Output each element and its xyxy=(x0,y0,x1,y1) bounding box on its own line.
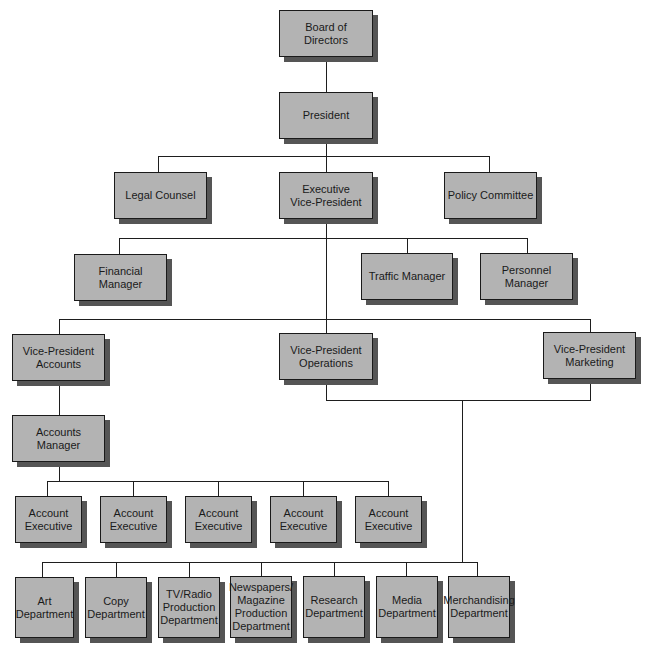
connector-line xyxy=(527,238,528,253)
org-chart: Board of Directors President Legal Couns… xyxy=(0,0,652,653)
node-label: Account Executive xyxy=(110,507,158,533)
node-newspapers-magazine-production-department[interactable]: Newspapers/ Magazine Production Departme… xyxy=(230,576,292,638)
connector-line xyxy=(158,156,159,172)
connector-line xyxy=(119,238,120,254)
node-research-department[interactable]: Research Department xyxy=(303,576,365,638)
connector-line xyxy=(47,481,48,496)
connector-line xyxy=(119,238,527,239)
connector-line xyxy=(133,481,134,496)
node-label: Vice-President Operations xyxy=(290,344,361,370)
node-label: Account Executive xyxy=(25,507,73,533)
connector-line xyxy=(189,562,190,577)
node-personnel-manager[interactable]: Personnel Manager xyxy=(480,253,573,300)
node-label: Newspapers/ Magazine Production Departme… xyxy=(229,581,293,633)
node-vp-marketing[interactable]: Vice-President Marketing xyxy=(543,332,636,379)
connector-line xyxy=(406,562,407,577)
connector-line xyxy=(59,319,590,320)
node-label: Board of Directors xyxy=(282,21,370,47)
connector-line xyxy=(477,562,478,577)
connector-line xyxy=(462,400,463,562)
connector-line xyxy=(334,562,335,577)
node-label: Media Department xyxy=(378,594,435,620)
connector-line xyxy=(326,219,327,333)
connector-line xyxy=(590,319,591,332)
node-account-executive[interactable]: Account Executive xyxy=(100,496,167,543)
node-executive-vice-president[interactable]: Executive Vice-President xyxy=(279,172,373,219)
connector-line xyxy=(326,57,327,92)
node-traffic-manager[interactable]: Traffic Manager xyxy=(361,253,453,300)
node-label: Executive Vice-President xyxy=(290,183,361,209)
node-tv-radio-production-department[interactable]: TV/Radio Production Department xyxy=(158,577,220,638)
node-label: Account Executive xyxy=(195,507,243,533)
connector-line xyxy=(388,481,389,496)
node-label: Financial Manager xyxy=(77,265,164,291)
node-media-department[interactable]: Media Department xyxy=(376,576,438,638)
connector-line xyxy=(261,562,262,577)
node-label: Art Department xyxy=(16,595,73,621)
node-account-executive[interactable]: Account Executive xyxy=(185,496,252,543)
connector-line xyxy=(59,381,60,415)
node-label: Personnel Manager xyxy=(483,264,570,290)
node-financial-manager[interactable]: Financial Manager xyxy=(74,254,167,301)
node-label: Copy Department xyxy=(87,595,144,621)
node-label: Vice-President Accounts xyxy=(23,345,94,371)
node-account-executive[interactable]: Account Executive xyxy=(15,496,82,543)
node-vp-operations[interactable]: Vice-President Operations xyxy=(279,333,373,380)
node-board-of-directors[interactable]: Board of Directors xyxy=(279,10,373,57)
connector-line xyxy=(590,379,591,400)
node-vp-accounts[interactable]: Vice-President Accounts xyxy=(12,334,105,381)
node-label: Accounts Manager xyxy=(36,426,81,452)
node-label: Research Department xyxy=(305,594,362,620)
node-legal-counsel[interactable]: Legal Counsel xyxy=(114,172,207,219)
connector-line xyxy=(326,380,327,400)
connector-line xyxy=(158,156,490,157)
node-policy-committee[interactable]: Policy Committee xyxy=(444,172,537,219)
connector-line xyxy=(407,238,408,253)
connector-line xyxy=(42,562,43,577)
node-label: TV/Radio Production Department xyxy=(160,588,217,627)
node-art-department[interactable]: Art Department xyxy=(15,577,74,638)
node-merchandising-department[interactable]: Merchandising Department xyxy=(448,576,510,638)
node-account-executive[interactable]: Account Executive xyxy=(270,496,337,543)
connector-line xyxy=(489,156,490,172)
node-accounts-manager[interactable]: Accounts Manager xyxy=(12,415,105,462)
node-label: President xyxy=(303,109,349,122)
node-label: Legal Counsel xyxy=(125,189,195,202)
connector-line xyxy=(59,462,60,481)
node-president[interactable]: President xyxy=(279,92,373,139)
connector-line xyxy=(42,562,478,563)
node-label: Policy Committee xyxy=(448,189,534,202)
connector-line xyxy=(218,481,219,496)
node-label: Account Executive xyxy=(280,507,328,533)
node-label: Merchandising Department xyxy=(443,594,515,620)
connector-line xyxy=(303,481,304,496)
connector-line xyxy=(59,319,60,334)
node-copy-department[interactable]: Copy Department xyxy=(85,577,147,638)
connector-line xyxy=(116,562,117,577)
node-label: Account Executive xyxy=(365,507,413,533)
node-label: Traffic Manager xyxy=(369,270,445,283)
connector-line xyxy=(326,400,591,401)
node-label: Vice-President Marketing xyxy=(554,343,625,369)
node-account-executive[interactable]: Account Executive xyxy=(355,496,422,543)
